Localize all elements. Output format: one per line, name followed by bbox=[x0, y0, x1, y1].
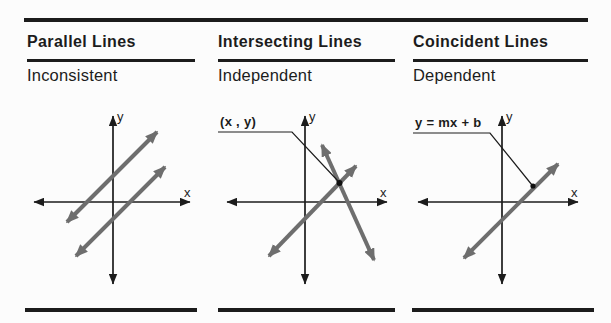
x-axis-label: x bbox=[184, 185, 191, 200]
y-axis-label: y bbox=[309, 109, 316, 124]
y-axis-label: y bbox=[506, 109, 513, 124]
bottom-rule-2 bbox=[218, 308, 395, 312]
callout-line bbox=[413, 133, 532, 185]
callout-line bbox=[218, 132, 338, 181]
callout-point bbox=[530, 183, 535, 188]
graphs-canvas: x y x y (x , y) x y y = mx + b bbox=[0, 0, 611, 323]
y-axis-label: y bbox=[117, 109, 124, 124]
x-axis-label: x bbox=[571, 185, 578, 200]
coincident-line bbox=[464, 164, 558, 258]
parallel-line-2 bbox=[76, 167, 165, 256]
rising-line bbox=[269, 166, 356, 256]
intersecting-lines-graph: x y (x , y) bbox=[218, 109, 387, 284]
bottom-rule-3 bbox=[412, 308, 594, 312]
parallel-line-1 bbox=[67, 132, 157, 222]
intersection-point bbox=[337, 180, 343, 186]
parallel-lines-graph: x y bbox=[34, 109, 191, 284]
x-axis-label: x bbox=[380, 185, 387, 200]
callout-label: (x , y) bbox=[220, 114, 256, 129]
callout-label: y = mx + b bbox=[415, 115, 482, 130]
linear-systems-figure: Parallel Lines Inconsistent Intersecting… bbox=[0, 0, 611, 323]
bottom-rule-1 bbox=[25, 308, 197, 312]
coincident-lines-graph: x y y = mx + b bbox=[413, 109, 578, 284]
